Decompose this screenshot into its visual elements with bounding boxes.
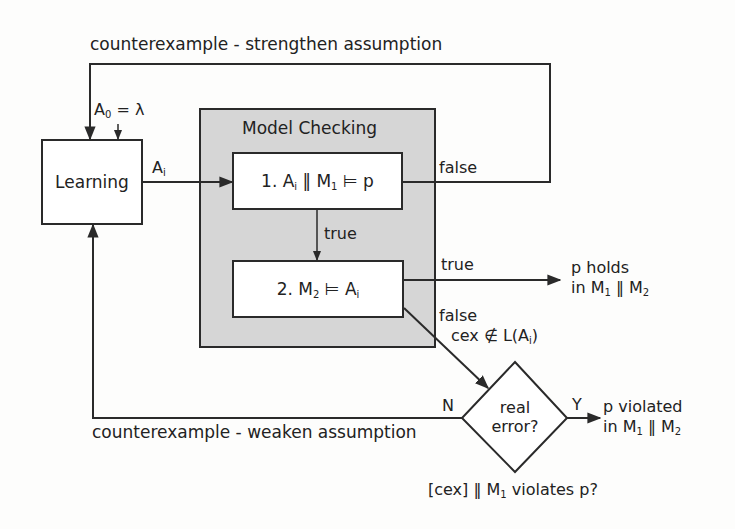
p-holds-label: p holds in M1 ‖ M2: [571, 258, 649, 303]
assumption-edge-label: Ai: [152, 160, 166, 178]
step2-true-label: true: [441, 257, 474, 273]
internal-true-label: true: [324, 226, 357, 242]
step1-false-label: false: [439, 160, 477, 176]
weaken-label: counterexample - weaken assumption: [92, 424, 417, 441]
decision-yes-label: Y: [572, 397, 582, 413]
decision-caption: [cex] ‖ M1 violates p?: [428, 482, 598, 500]
p-violated-label: p violated in M1 ‖ M2: [603, 397, 682, 442]
decision-text: real error?: [483, 398, 547, 436]
decision-no-label: N: [442, 398, 454, 414]
initial-assumption-label: A0 = λ: [94, 102, 144, 120]
assume-guarantee-diagram: Model Checking Learning 1. Ai ‖ M1 ⊨ p 2…: [0, 0, 735, 529]
cex-condition-label: cex ∉ L(Ai): [451, 328, 538, 346]
step2-false-label: false: [439, 308, 477, 324]
strengthen-label: counterexample - strengthen assumption: [90, 36, 442, 53]
weaken-loop-edge: [93, 225, 462, 418]
